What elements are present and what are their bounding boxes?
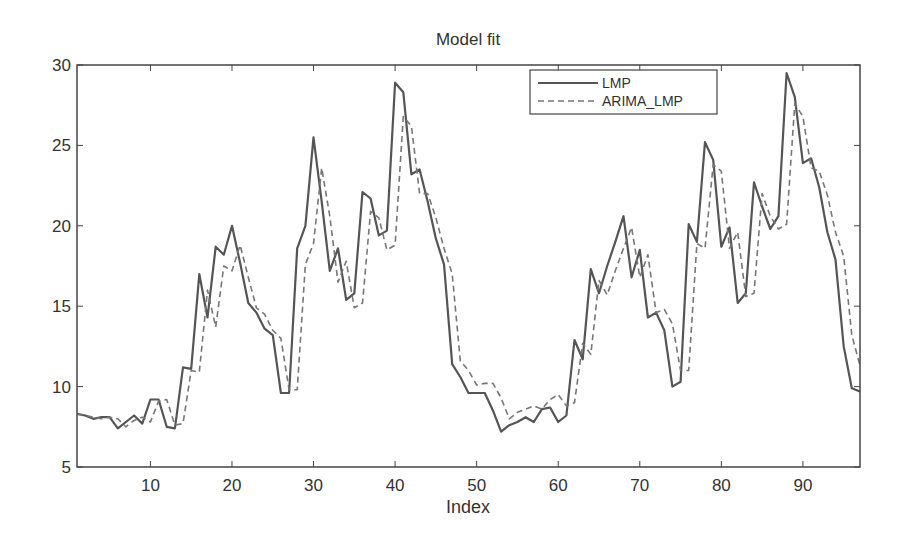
x-axis-label: Index	[446, 497, 490, 517]
y-tick-label: 20	[52, 217, 71, 236]
series-layer	[77, 73, 860, 432]
x-tick-label: 40	[386, 476, 405, 495]
model-fit-chart: Model fit 10203040506070809051015202530 …	[0, 0, 903, 537]
x-tick-label: 10	[141, 476, 160, 495]
y-tick-label: 5	[62, 458, 71, 477]
legend: LMP ARIMA_LMP	[530, 70, 717, 114]
x-tick-label: 80	[712, 476, 731, 495]
y-tick-label: 10	[52, 378, 71, 397]
chart-title: Model fit	[436, 30, 501, 49]
y-tick-label: 15	[52, 297, 71, 316]
series-line-arima-lmp	[77, 104, 860, 427]
x-tick-label: 90	[793, 476, 812, 495]
series-line-lmp	[77, 73, 860, 432]
legend-label-arima-lmp: ARIMA_LMP	[602, 93, 683, 109]
legend-label-lmp: LMP	[602, 75, 631, 91]
y-tick-label: 25	[52, 136, 71, 155]
x-tick-label: 30	[304, 476, 323, 495]
x-tick-label: 60	[549, 476, 568, 495]
x-tick-label: 50	[467, 476, 486, 495]
x-tick-label: 20	[223, 476, 242, 495]
y-tick-label: 30	[52, 56, 71, 75]
x-tick-label: 70	[630, 476, 649, 495]
